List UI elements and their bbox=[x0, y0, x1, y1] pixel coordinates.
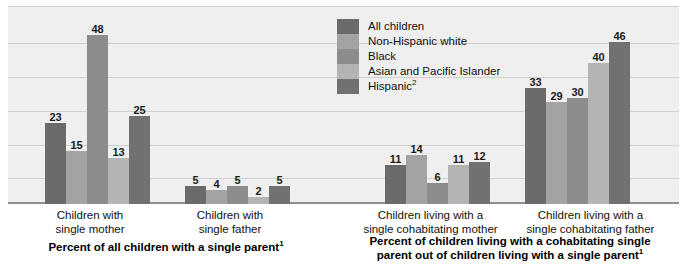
section-label-cohabitating-line1: Percent of children living with a cohabi… bbox=[369, 235, 650, 247]
legend-label-asian-pacific-islander: Asian and Pacific Islander bbox=[368, 65, 500, 78]
legend-label-hispanic-sup: 2 bbox=[412, 78, 416, 87]
legend-label-hispanic-text: Hispanic bbox=[368, 80, 412, 92]
category-label-cohabitating-father-line1: Children living with a bbox=[538, 209, 643, 221]
category-label-single-father: Children with single father bbox=[170, 208, 290, 236]
bar-g3-black bbox=[427, 183, 448, 204]
legend-swatch-hispanic bbox=[337, 79, 359, 94]
bar-g2-hispanic bbox=[269, 186, 290, 204]
legend-label-non-hispanic-white: Non-Hispanic white bbox=[368, 35, 467, 48]
bar-label-g1-black: 48 bbox=[82, 23, 113, 35]
bar-label-g4-hispanic: 46 bbox=[604, 30, 635, 42]
legend-label-black: Black bbox=[368, 50, 396, 63]
bar-g2-non-hispanic-white bbox=[206, 190, 227, 204]
bar-g2-asian-pacific-islander bbox=[248, 197, 269, 204]
bar-g4-hispanic bbox=[609, 42, 630, 204]
legend-item-all-children: All children bbox=[337, 19, 542, 34]
bar-g1-all-children bbox=[45, 123, 66, 204]
section-label-cohabitating-sup: 1 bbox=[639, 247, 643, 256]
bar-g1-black bbox=[87, 35, 108, 204]
bar-label-g1-hispanic: 25 bbox=[124, 104, 155, 116]
plot-area: 23 15 48 13 25 5 4 5 2 5 11 14 6 11 12 bbox=[8, 6, 679, 204]
bar-g4-all-children bbox=[525, 88, 546, 204]
bar-g3-asian-pacific-islander bbox=[448, 165, 469, 204]
chart-legend: All children Non-Hispanic white Black As… bbox=[337, 19, 542, 94]
legend-label-all-children: All children bbox=[368, 20, 424, 33]
bar-label-g3-hispanic: 12 bbox=[464, 150, 495, 162]
category-label-cohabitating-mother: Children living with a single cohabitati… bbox=[348, 208, 513, 236]
chart-figure: 23 15 48 13 25 5 4 5 2 5 11 14 6 11 12 bbox=[0, 0, 687, 267]
category-label-cohabitating-father: Children living with a single cohabitati… bbox=[508, 208, 673, 236]
bar-label-g2-hispanic: 5 bbox=[264, 174, 295, 186]
gridline-50 bbox=[8, 6, 679, 7]
category-label-single-mother-line1: Children with bbox=[57, 209, 123, 221]
legend-swatch-non-hispanic-white bbox=[337, 34, 359, 49]
section-label-single-parent-line1: Percent of all children with a single pa… bbox=[48, 241, 279, 253]
legend-item-asian-pacific-islander: Asian and Pacific Islander bbox=[337, 64, 542, 79]
legend-swatch-black bbox=[337, 49, 359, 64]
legend-label-hispanic: Hispanic2 bbox=[368, 80, 417, 93]
category-label-single-father-line2: single father bbox=[199, 223, 262, 235]
category-label-single-mother: Children with single mother bbox=[30, 208, 150, 236]
legend-item-hispanic: Hispanic2 bbox=[337, 79, 542, 94]
bar-g3-all-children bbox=[385, 165, 406, 204]
section-label-cohabitating-line2: parent out of children living with a sin… bbox=[377, 249, 639, 261]
bar-g4-asian-pacific-islander bbox=[588, 63, 609, 204]
legend-swatch-all-children bbox=[337, 19, 359, 34]
bar-g4-black bbox=[567, 98, 588, 204]
category-label-single-mother-line2: single mother bbox=[55, 223, 124, 235]
legend-item-black: Black bbox=[337, 49, 542, 64]
category-label-single-father-line1: Children with bbox=[197, 209, 263, 221]
category-label-cohabitating-mother-line1: Children living with a bbox=[378, 209, 483, 221]
legend-swatch-asian-pacific-islander bbox=[337, 64, 359, 79]
bar-g3-hispanic bbox=[469, 162, 490, 204]
bar-g1-hispanic bbox=[129, 116, 150, 204]
bar-label-g1-all-children: 23 bbox=[40, 111, 71, 123]
section-label-single-parent-sup: 1 bbox=[279, 239, 283, 248]
bar-g1-non-hispanic-white bbox=[66, 151, 87, 204]
legend-item-non-hispanic-white: Non-Hispanic white bbox=[337, 34, 542, 49]
bar-label-g3-non-hispanic-white: 14 bbox=[401, 143, 432, 155]
bar-g1-asian-pacific-islander bbox=[108, 158, 129, 204]
bar-g4-non-hispanic-white bbox=[546, 102, 567, 204]
section-label-cohabitating: Percent of children living with a cohabi… bbox=[345, 234, 675, 262]
section-label-single-parent: Percent of all children with a single pa… bbox=[16, 240, 316, 254]
